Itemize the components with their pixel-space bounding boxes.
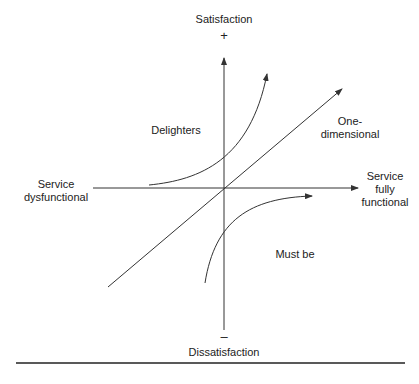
plus-sign: + (214, 29, 234, 42)
must-be-curve (205, 196, 312, 283)
service-dysfunctional-label: Service dysfunctional (16, 178, 96, 204)
service-fully-functional-label: Service fully functional (355, 170, 415, 209)
must-be-label: Must be (265, 248, 325, 261)
one-dimensional-label: One- dimensional (310, 115, 390, 141)
minus-sign: – (214, 330, 234, 343)
satisfaction-label: Satisfaction (174, 13, 274, 26)
delighters-label: Delighters (136, 124, 216, 137)
dissatisfaction-label: Dissatisfaction (164, 346, 284, 359)
